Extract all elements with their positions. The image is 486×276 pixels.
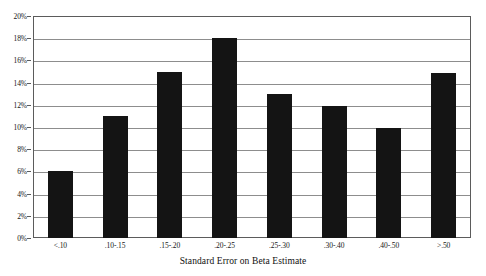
y-tick-label: 12% [14, 100, 27, 109]
y-tick-mark [27, 171, 31, 172]
x-tick-label: .25-.30 [269, 241, 290, 250]
y-tick-label: 20% [14, 12, 27, 21]
bar [103, 116, 128, 238]
x-tick-label: >.50 [437, 241, 450, 250]
x-axis: <.10.10-.15.15-.20.20-.25.25-.30.30-.40.… [33, 241, 471, 255]
x-tick-label: .30-.40 [324, 241, 345, 250]
y-tick-label: 4% [17, 189, 27, 198]
bar [322, 106, 347, 238]
bar [157, 72, 182, 239]
y-tick-label: 18% [14, 34, 27, 43]
x-tick-label: .10-.15 [105, 241, 126, 250]
bar [376, 128, 401, 238]
bar [267, 94, 292, 238]
x-axis-title: Standard Error on Beta Estimate [0, 256, 486, 266]
y-tick-label: 8% [17, 145, 27, 154]
y-tick-label: 14% [14, 78, 27, 87]
bar [212, 38, 237, 238]
x-tick-label: .15-.20 [160, 241, 181, 250]
y-tick-mark [27, 149, 31, 150]
y-tick-mark [27, 60, 31, 61]
bar [431, 73, 456, 238]
y-tick-mark [27, 127, 31, 128]
y-tick-mark [27, 105, 31, 106]
x-tick-label: .20-.25 [214, 241, 235, 250]
y-tick-label: 6% [17, 167, 27, 176]
bar-chart: 0%2%4%6%8%10%12%14%16%18%20% <.10.10-.15… [0, 0, 486, 276]
y-tick-label: 2% [17, 211, 27, 220]
y-tick-label: 16% [14, 56, 27, 65]
y-tick-mark [27, 216, 31, 217]
y-tick-label: 0% [17, 234, 27, 243]
y-tick-label: 10% [14, 123, 27, 132]
y-tick-mark [27, 38, 31, 39]
y-tick-mark [27, 238, 31, 239]
y-tick-mark [27, 83, 31, 84]
y-axis: 0%2%4%6%8%10%12%14%16%18%20% [0, 16, 31, 238]
bars-layer [33, 16, 471, 238]
y-tick-mark [27, 194, 31, 195]
y-tick-mark [27, 16, 31, 17]
x-tick-label: .40-.50 [379, 241, 400, 250]
x-tick-label: <.10 [54, 241, 67, 250]
bar [48, 171, 73, 238]
